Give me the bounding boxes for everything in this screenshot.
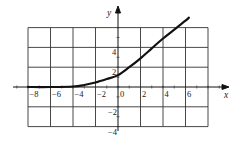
x-tick-label: −8	[30, 89, 39, 99]
y-tick-label: 2	[112, 67, 116, 77]
x-tick-label: 4	[165, 89, 170, 99]
y-axis-arrow-icon	[116, 6, 121, 13]
x-tick-label: −6	[52, 89, 61, 99]
y-axis-label: y	[106, 8, 112, 18]
y-tick-label: 4	[112, 47, 117, 57]
x-tick-label: −4	[75, 89, 85, 99]
x-axis-arrow-icon	[222, 85, 229, 90]
tick-labels: −8−6−4−2024642−2−4	[30, 47, 192, 136]
x-tick-label: 0	[120, 89, 124, 99]
x-tick-label: −2	[97, 89, 106, 99]
y-tick-label: −2	[108, 107, 117, 117]
x-tick-label: 2	[142, 89, 146, 99]
y-tick-label: −4	[108, 127, 118, 137]
x-tick-label: 6	[187, 89, 191, 99]
axes	[13, 6, 229, 131]
function-curve	[28, 18, 189, 87]
function-graph: −8−6−4−2024642−2−4 x y	[0, 0, 243, 143]
x-axis-label: x	[223, 90, 229, 100]
